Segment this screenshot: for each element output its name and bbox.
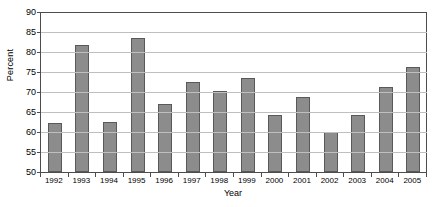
y-axis-tick-label: 90 [14,8,36,17]
figure-caption [40,200,426,207]
bar[interactable] [103,122,117,172]
bar[interactable] [379,87,393,172]
x-axis-tick-label: 1997 [178,176,206,186]
x-axis-tick-label: 1998 [205,176,233,186]
x-axis-tick-labels: 1992199319941995199619971998199920002001… [40,176,426,186]
y-axis-tick-mark [37,32,41,33]
y-axis-tick-mark [37,132,41,133]
bar[interactable] [186,82,200,172]
bar[interactable] [296,97,310,172]
x-axis-tick-label: 2001 [288,176,316,186]
y-axis-tick-mark [37,12,41,13]
bar[interactable] [268,115,282,172]
gridline [41,72,427,73]
x-axis-tick-label: 1999 [233,176,261,186]
x-axis-tick-label: 1993 [68,176,96,186]
x-axis-tick-label: 2000 [261,176,289,186]
x-axis-tick-label: 1996 [150,176,178,186]
y-axis-tick-label: 50 [14,168,36,177]
gridline [41,132,427,133]
y-axis-tick-label: 65 [14,108,36,117]
y-axis-tick-label: 70 [14,88,36,97]
x-axis-tick-label: 2005 [399,176,427,186]
x-axis-tick-label: 1995 [123,176,151,186]
bar[interactable] [48,123,62,172]
x-axis-tick-label: 2003 [343,176,371,186]
x-axis-tick-label: 1994 [95,176,123,186]
x-axis-tick-label: 2002 [316,176,344,186]
y-axis-tick-label: 80 [14,48,36,57]
bar-chart: Percent 908580757065605550 1992199319941… [0,0,434,207]
plot-area [40,12,427,173]
y-axis-tick-label: 55 [14,148,36,157]
gridline [41,112,427,113]
y-axis-tick-label: 85 [14,28,36,37]
y-axis-tick-labels: 908580757065605550 [14,12,36,172]
y-axis-tick-mark [37,112,41,113]
bar[interactable] [158,104,172,172]
x-axis-title: Year [40,188,426,198]
bar[interactable] [351,115,365,172]
gridline [41,32,427,33]
y-axis-tick-label: 75 [14,68,36,77]
gridline [41,52,427,53]
y-axis-tick-mark [37,52,41,53]
gridline [41,92,427,93]
x-axis-tick-label: 1992 [40,176,68,186]
x-axis-tick-label: 2004 [371,176,399,186]
x-axis-tick-mark [426,173,427,177]
bar[interactable] [406,67,420,172]
y-axis-tick-mark [37,72,41,73]
y-axis-tick-mark [37,152,41,153]
gridline [41,152,427,153]
y-axis-tick-mark [37,92,41,93]
y-axis-tick-label: 60 [14,128,36,137]
